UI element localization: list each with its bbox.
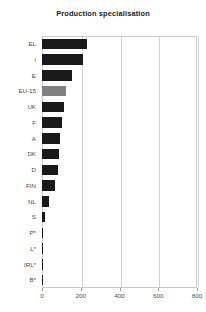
bar-row xyxy=(42,209,197,225)
bar-row xyxy=(42,131,197,147)
bar-bstar xyxy=(42,275,43,286)
chart-figure: Production specialisation ELIEEU-15UKFAD… xyxy=(0,0,206,312)
y-axis-label-i: I xyxy=(0,52,39,68)
y-axis-label-dk: DK xyxy=(0,146,39,162)
bar-row xyxy=(42,241,197,257)
bar-row xyxy=(42,68,197,84)
bar-eu-15 xyxy=(42,86,66,97)
tick-mark-400 xyxy=(120,288,121,291)
bar-row xyxy=(42,36,197,52)
tick-mark-600 xyxy=(158,288,159,291)
gridline-800 xyxy=(198,37,199,287)
bar-nl xyxy=(42,196,49,207)
bar-row xyxy=(42,99,197,115)
bar-row xyxy=(42,225,197,241)
bar-el xyxy=(42,39,87,50)
y-axis-label-a: A xyxy=(0,131,39,147)
x-axis-tick-label-200: 200 xyxy=(76,292,86,299)
bar-row xyxy=(42,146,197,162)
bar-s xyxy=(42,212,45,223)
bar-row xyxy=(42,162,197,178)
bar-row xyxy=(42,194,197,210)
bar-f xyxy=(42,117,62,128)
bar-uk xyxy=(42,102,64,113)
y-axis-label-nl: NL xyxy=(0,194,39,210)
bar-row xyxy=(42,83,197,99)
x-axis-tick-labels: 0200400600800 xyxy=(0,292,206,304)
bar-row xyxy=(42,52,197,68)
bar-fin xyxy=(42,180,55,191)
y-axis-label-bstar: B* xyxy=(0,272,39,288)
y-axis-label-eu-15: EU-15 xyxy=(0,83,39,99)
y-axis-labels: ELIEEU-15UKFADKDFINNLSP*L*IRL*B* xyxy=(0,36,39,288)
y-axis-label-s: S xyxy=(0,209,39,225)
x-axis-tick-label-0: 0 xyxy=(40,292,43,299)
bar-lstar xyxy=(42,243,43,254)
bar-d xyxy=(42,165,58,176)
bar-row xyxy=(42,257,197,273)
y-axis-label-fin: FIN xyxy=(0,178,39,194)
y-axis-label-el: EL xyxy=(0,36,39,52)
x-axis-tick-label-400: 400 xyxy=(114,292,124,299)
bar-i xyxy=(42,54,83,65)
y-axis-label-e: E xyxy=(0,68,39,84)
bar-row xyxy=(42,272,197,288)
tick-mark-200 xyxy=(81,288,82,291)
bar-pstar xyxy=(42,228,43,239)
bar-row xyxy=(42,115,197,131)
y-axis-label-irlstar: IRL* xyxy=(0,257,39,273)
tick-mark-800 xyxy=(197,288,198,291)
chart-title: Production specialisation xyxy=(0,9,206,18)
bar-irlstar xyxy=(42,259,43,270)
y-axis-label-uk: UK xyxy=(0,99,39,115)
y-axis-label-d: D xyxy=(0,162,39,178)
bar-e xyxy=(42,70,72,81)
y-axis-label-lstar: L* xyxy=(0,241,39,257)
y-axis-label-pstar: P* xyxy=(0,225,39,241)
x-axis-tick-label-600: 600 xyxy=(153,292,163,299)
y-axis-label-f: F xyxy=(0,115,39,131)
bar-row xyxy=(42,178,197,194)
bar-series xyxy=(42,36,197,288)
x-axis-tick-label-800: 800 xyxy=(192,292,202,299)
tick-mark-0 xyxy=(42,288,43,291)
bar-a xyxy=(42,133,60,144)
bar-dk xyxy=(42,149,59,160)
